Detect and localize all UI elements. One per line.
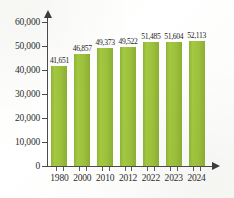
y-axis-line [47,17,48,167]
y-axis-label: 0 [0,161,40,171]
x-axis-tick [102,167,103,171]
y-axis-label: 10,000 [0,137,40,147]
y-axis-tick [42,166,47,167]
y-axis-tick [42,46,47,47]
bar-chart: 010,00020,00030,00040,00050,00060,000 41… [0,0,234,198]
x-axis-tick [79,167,80,171]
x-axis-tick [125,167,126,171]
y-axis-label: 60,000 [0,17,40,27]
y-axis-label: 20,000 [0,113,40,123]
bar-value-label: 46,857 [73,44,92,53]
x-axis-arrow-icon [212,162,220,170]
x-axis-line [47,166,213,167]
x-axis-tick [154,167,155,171]
bar-value-label: 51,604 [164,32,183,41]
x-axis-tick [177,167,178,171]
x-axis-tick [86,167,87,171]
x-axis-tick [56,167,57,171]
bar [74,54,90,166]
bar-value-label: 51,485 [141,32,160,41]
x-axis-tick [131,167,132,171]
x-axis-tick [193,167,194,171]
bar [143,42,159,166]
y-axis-label: 50,000 [0,41,40,51]
bar-value-label: 41,651 [50,56,69,65]
x-axis-label: 2000 [73,173,91,183]
bar [189,41,205,166]
bar-value-label: 49,373 [96,38,115,47]
y-axis-tick [42,94,47,95]
y-axis-arrow-icon [44,10,52,18]
y-axis-label: 40,000 [0,65,40,75]
x-axis-tick [170,167,171,171]
x-axis-label: 2022 [142,173,160,183]
x-axis-tick [200,167,201,171]
x-axis-tick [63,167,64,171]
bar-value-label: 49,522 [118,37,137,46]
x-axis-label: 1980 [50,173,68,183]
bar-value-label: 52,113 [187,31,206,40]
x-axis-tick [147,167,148,171]
x-axis-label: 2012 [119,173,137,183]
x-axis-label: 2010 [96,173,114,183]
x-axis-label: 2024 [187,173,205,183]
y-axis-tick [42,22,47,23]
bar [97,48,113,166]
y-axis-tick [42,70,47,71]
x-axis-tick [109,167,110,171]
x-axis-label: 2023 [165,173,183,183]
y-axis-tick [42,118,47,119]
bar [51,66,67,166]
bar [120,47,136,166]
y-axis-label: 30,000 [0,89,40,99]
y-axis-tick [42,142,47,143]
bar [166,42,182,166]
